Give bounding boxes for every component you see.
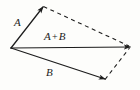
- vector-a-label: A: [14, 17, 21, 28]
- dashed-line-b-side: [105, 48, 130, 80]
- vector-canvas: [0, 0, 140, 90]
- vector-sum-label-second-term: B: [59, 30, 66, 42]
- vector-b-label-text: B: [46, 66, 53, 78]
- vector-diagram: A A+B B: [0, 0, 140, 90]
- plus-operator: +: [51, 31, 59, 42]
- vector-b-label: B: [46, 67, 53, 78]
- vector-a-label-text: A: [14, 16, 21, 28]
- vector-b-line: [11, 48, 105, 79]
- vector-sum-line: [11, 47, 130, 48]
- vector-sum-label: A+B: [44, 31, 66, 42]
- vector-sum-label-first-term: A: [44, 30, 51, 42]
